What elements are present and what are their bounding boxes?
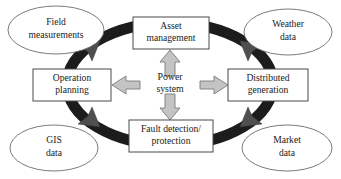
node-weather-data[interactable]: Weather data (244, 9, 332, 55)
gis-data-label-line1: GIS (46, 134, 61, 145)
asset-management-label-line1: Asset (160, 20, 182, 31)
node-fault-detection-protection[interactable]: Fault detection/ protection (129, 120, 213, 152)
diagram-svg: Power system Asset management Distribute… (0, 0, 341, 179)
distributed-generation-label-line1: Distributed (246, 72, 289, 83)
operation-planning-label-line2: planning (55, 84, 89, 95)
arrow-down-icon (160, 94, 180, 120)
weather-data-label-line1: Weather (272, 18, 305, 29)
node-operation-planning[interactable]: Operation planning (33, 69, 111, 101)
diagram-canvas: Power system Asset management Distribute… (0, 0, 341, 179)
fault-detection-protection-label-line2: protection (152, 135, 191, 146)
arrow-right-icon (200, 76, 228, 94)
power-system-label-line2: system (156, 83, 184, 94)
node-market-data[interactable]: Market data (242, 125, 332, 171)
node-asset-management[interactable]: Asset management (133, 17, 209, 49)
field-measurements-label-line2: measurements (29, 29, 84, 40)
field-measurements-label-line1: Field (46, 16, 66, 27)
fault-detection-protection-label-line1: Fault detection/ (141, 123, 201, 134)
weather-data-label-line2: data (280, 31, 297, 42)
market-data-label-line1: Market (273, 134, 301, 145)
node-distributed-generation[interactable]: Distributed generation (228, 69, 308, 101)
operation-planning-label-line1: Operation (53, 72, 92, 83)
arrow-left-icon (112, 76, 140, 94)
power-system-label-line1: Power (157, 71, 183, 82)
gis-data-label-line2: data (46, 147, 63, 158)
node-field-measurements[interactable]: Field measurements (8, 6, 104, 54)
distributed-generation-label-line2: generation (248, 84, 289, 95)
node-gis-data[interactable]: GIS data (10, 125, 98, 171)
asset-management-label-line2: management (146, 32, 195, 43)
market-data-label-line2: data (279, 147, 296, 158)
